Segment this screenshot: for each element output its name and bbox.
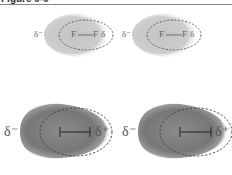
charge-right: δ⁺ (95, 125, 109, 139)
atom-left: F (71, 30, 76, 39)
atom-left: F (159, 30, 164, 39)
charge-left: δ⁻ (122, 30, 131, 39)
charge-left: δ⁻ (122, 125, 136, 139)
charge-left: δ⁻ (4, 125, 18, 139)
atom-right: F (93, 30, 98, 39)
charge-right: δ (101, 30, 105, 39)
panel-f2-right: δ⁻ F F δ (116, 0, 232, 80)
electron-cloud-diagram (116, 0, 232, 80)
charge-right: δ⁺ (215, 125, 229, 139)
atom-right: F (182, 30, 187, 39)
charge-left: δ⁻ (34, 30, 43, 39)
panel-i2-left: δ⁻ δ⁺ (0, 80, 116, 175)
charge-right: δ (190, 30, 194, 39)
panel-f2-left: δ⁻ F F δ (0, 0, 116, 80)
panel-i2-right: δ⁻ δ⁺ (116, 80, 232, 175)
electron-cloud-diagram (0, 0, 116, 80)
